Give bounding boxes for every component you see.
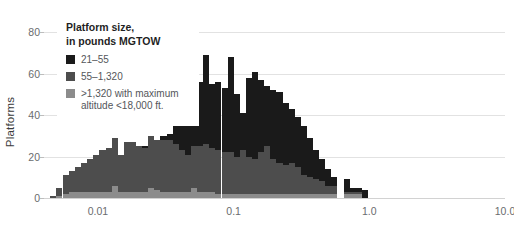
x-tick-label-0.1: 0.1 [226,205,241,217]
bar-segment [81,163,87,192]
bar-segment [75,167,81,192]
bar-segment [130,142,136,192]
gridline-y-0 [44,198,505,199]
x-tick-label-1.0: 1.0 [362,205,377,217]
legend-swatch-icon [66,72,75,81]
bar-segment [56,188,62,196]
bar-segment [99,192,105,198]
legend-swatch-icon [66,55,75,64]
legend-item-label: 21–55 [81,54,109,66]
legend-item-label: >1,320 with maximum altitude <18,000 ft. [81,88,179,112]
bar-segment [56,196,62,198]
legend-title: Platform size, in pounds MGTOW [66,21,190,48]
bar-segment [124,142,130,192]
legend-item-2[interactable]: >1,320 with maximum altitude <18,000 ft. [66,88,190,112]
legend: Platform size, in pounds MGTOW 21–5555–1… [57,13,199,126]
bar-segment [93,155,99,192]
bar-segment [130,192,136,198]
bar-segment [81,192,87,198]
bar-segment [99,150,105,191]
y-axis-title: Platforms [0,0,20,244]
legend-item-label: 55–1,320 [81,71,123,83]
bar-column [362,22,368,198]
legend-swatch-icon [66,89,75,98]
bar-segment [124,192,130,198]
stacked-histogram-chart: Platforms 020406080 0.010.11.010.0 Platf… [0,0,514,244]
bar-segment [93,192,99,198]
legend-items: 21–5555–1,320>1,320 with maximum altitud… [66,54,190,112]
x-tick-label-10.0: 10.0 [495,205,514,217]
legend-item-1[interactable]: 55–1,320 [66,71,190,83]
bar-segment [362,190,368,198]
bar-segment [75,192,81,198]
x-tick-label-0.01: 0.01 [88,205,108,217]
legend-item-0[interactable]: 21–55 [66,54,190,66]
